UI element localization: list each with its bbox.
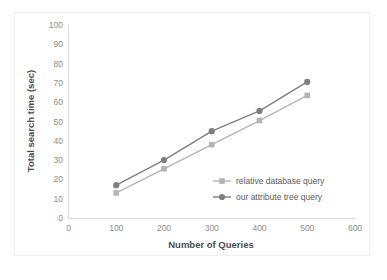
y-tick-label: 40 xyxy=(54,136,64,146)
x-axis-title: Number of Queries xyxy=(168,239,254,250)
data-point-marker xyxy=(209,142,215,148)
data-point-marker xyxy=(256,108,262,114)
chart-legend: relative database queryour attribute tre… xyxy=(213,176,325,202)
y-axis-title: Total search time (sec) xyxy=(25,70,36,172)
x-tick-labels: 0100200300400500600 xyxy=(66,223,362,233)
y-tick-label: 50 xyxy=(54,117,64,127)
y-tick-label: 70 xyxy=(54,78,64,88)
data-point-marker xyxy=(113,190,119,196)
x-tick-label: 600 xyxy=(348,223,362,233)
data-point-marker xyxy=(209,128,215,134)
data-point-marker xyxy=(304,79,310,85)
y-tick-label: 100 xyxy=(49,20,63,30)
data-point-marker xyxy=(161,157,167,163)
x-tick-label: 100 xyxy=(109,223,123,233)
y-tick-label: 10 xyxy=(54,194,64,204)
legend-label: our attribute tree query xyxy=(236,192,323,202)
legend-swatch-marker xyxy=(219,194,225,200)
data-point-marker xyxy=(257,118,263,124)
data-point-marker xyxy=(161,166,167,172)
y-tick-label: 90 xyxy=(54,39,64,49)
x-tick-label: 0 xyxy=(66,223,71,233)
data-point-marker xyxy=(113,182,119,188)
y-tick-label: 80 xyxy=(54,59,64,69)
legend-swatch-marker xyxy=(219,178,225,184)
legend-label: relative database query xyxy=(236,176,325,186)
x-tick-label: 400 xyxy=(252,223,266,233)
data-point-marker xyxy=(304,93,310,99)
y-tick-labels: 0102030405060708090100 xyxy=(49,20,63,223)
y-tick-label: 0 xyxy=(58,213,63,223)
y-tick-label: 60 xyxy=(54,97,64,107)
y-tick-label: 30 xyxy=(54,155,64,165)
chart-figure: 0102030405060708090100 01002003004005006… xyxy=(0,0,387,280)
x-tick-label: 200 xyxy=(157,223,171,233)
y-tick-label: 20 xyxy=(54,174,64,184)
x-tick-label: 500 xyxy=(300,223,314,233)
data-series xyxy=(113,79,310,188)
x-tick-label: 300 xyxy=(205,223,219,233)
chart-canvas: 0102030405060708090100 01002003004005006… xyxy=(0,0,387,280)
